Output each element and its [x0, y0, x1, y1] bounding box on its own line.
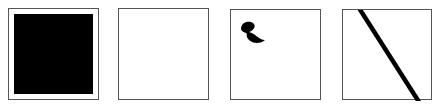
diagonal-line-shape [343, 10, 433, 101]
panel-curl-glyph [230, 9, 321, 100]
panel-diagonal-line [342, 9, 432, 100]
panel-empty [118, 8, 209, 100]
curl-glyph-icon [231, 10, 322, 101]
panel-filled-square [8, 8, 99, 100]
black-square-shape [14, 14, 93, 94]
